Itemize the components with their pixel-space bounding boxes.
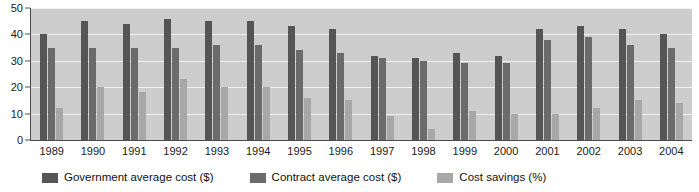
bar (511, 114, 518, 140)
plot-container: 01020304050 1989199019911992199319941995… (0, 8, 699, 160)
bar-group (155, 8, 196, 140)
bar (221, 87, 228, 140)
y-axis-tick-label: 40 (11, 29, 23, 40)
bar-group (362, 8, 403, 140)
chart-legend: Government average cost ($)Contract aver… (0, 168, 699, 188)
legend-swatch (42, 173, 58, 183)
bar (593, 108, 600, 140)
bar-group (527, 8, 568, 140)
bar (635, 100, 642, 140)
bar (495, 56, 502, 140)
x-axis-tick-label: 1992 (163, 144, 187, 158)
bar-group (485, 8, 526, 140)
bar-group (403, 8, 444, 140)
bar (180, 79, 187, 140)
x-axis-tick-label: 1989 (39, 144, 63, 158)
x-axis-tick-label: 1995 (287, 144, 311, 158)
bar (337, 53, 344, 140)
bar (139, 92, 146, 140)
x-axis-tick-label: 2004 (659, 144, 683, 158)
bar (660, 34, 667, 140)
bar (469, 111, 476, 140)
x-axis-tick-label: 1996 (329, 144, 353, 158)
bar (263, 87, 270, 140)
legend-label: Contract average cost ($) (272, 172, 402, 184)
bar (536, 29, 543, 140)
bar (48, 48, 55, 140)
bar (131, 48, 138, 140)
bar-group (238, 8, 279, 140)
legend-item: Cost savings (%) (437, 172, 546, 184)
bar (453, 53, 460, 140)
legend-label: Government average cost ($) (64, 172, 214, 184)
x-axis-tick-label: 2003 (618, 144, 642, 158)
bar-group (568, 8, 609, 140)
x-axis-tick-label: 1994 (246, 144, 270, 158)
bar (428, 129, 435, 140)
x-axis-tick-label: 1990 (81, 144, 105, 158)
bar (56, 108, 63, 140)
bar-group (651, 8, 692, 140)
bar (627, 45, 634, 140)
bar (205, 21, 212, 140)
y-axis-tick-label: 20 (11, 82, 23, 93)
x-axis-tick-label: 1993 (205, 144, 229, 158)
bar-group (114, 8, 155, 140)
bar (247, 21, 254, 140)
x-axis-tick-label: 1991 (122, 144, 146, 158)
bar-group (31, 8, 72, 140)
y-axis-tick-label: 50 (11, 3, 23, 14)
plot-area (31, 8, 692, 140)
legend-swatch (437, 173, 453, 183)
bar (81, 21, 88, 140)
y-axis-tick-label: 0 (17, 135, 23, 146)
bar (577, 26, 584, 140)
bar-group (609, 8, 650, 140)
bar (296, 50, 303, 140)
x-axis: 1989199019911992199319941995199619971998… (31, 144, 692, 160)
x-axis-tick-label: 1998 (411, 144, 435, 158)
legend-item: Contract average cost ($) (250, 172, 402, 184)
x-axis-tick-label: 2001 (535, 144, 559, 158)
y-axis-tick-label: 30 (11, 55, 23, 66)
y-axis-tick-label: 10 (11, 108, 23, 119)
bar (213, 45, 220, 140)
x-axis-tick-label: 1999 (453, 144, 477, 158)
x-axis-tick-label: 2000 (494, 144, 518, 158)
bar-group (196, 8, 237, 140)
bar-group (72, 8, 113, 140)
bar-group (444, 8, 485, 140)
bar (123, 24, 130, 140)
bar (97, 87, 104, 140)
bar (255, 45, 262, 140)
x-axis-tick-label: 2002 (576, 144, 600, 158)
bar (619, 29, 626, 140)
bar (544, 40, 551, 140)
bar (164, 19, 171, 140)
x-axis-line (30, 140, 692, 141)
bar (585, 37, 592, 140)
bar-chart-figure: 01020304050 1989199019911992199319941995… (0, 0, 699, 192)
bar-group (279, 8, 320, 140)
legend-item: Government average cost ($) (42, 172, 214, 184)
bar (345, 100, 352, 140)
bar (379, 58, 386, 140)
bar (329, 29, 336, 140)
bar (288, 26, 295, 140)
bar (304, 98, 311, 140)
bar (676, 103, 683, 140)
y-axis: 01020304050 (0, 8, 30, 140)
bar (371, 56, 378, 140)
bar (412, 58, 419, 140)
bar (387, 116, 394, 140)
bar (40, 34, 47, 140)
bar (668, 48, 675, 140)
bar (420, 61, 427, 140)
bar (503, 63, 510, 140)
legend-swatch (250, 173, 266, 183)
x-axis-tick-label: 1997 (370, 144, 394, 158)
bar (461, 63, 468, 140)
bar (89, 48, 96, 140)
legend-label: Cost savings (%) (459, 172, 546, 184)
bar (172, 48, 179, 140)
